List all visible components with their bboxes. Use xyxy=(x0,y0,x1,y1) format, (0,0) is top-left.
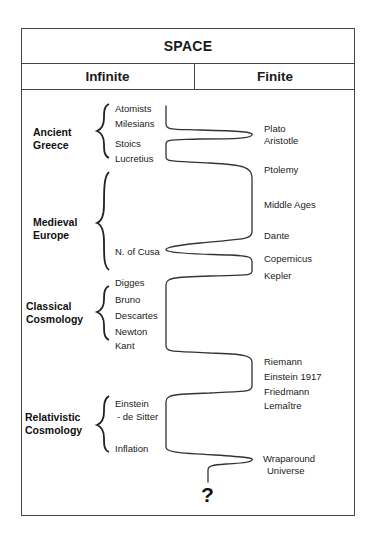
era-label-ancient-greece: Ancient Greece xyxy=(33,126,72,151)
infinite-item-atomists: Atomists xyxy=(115,103,151,114)
era-label-relativistic-cosmology: Relativistic Cosmology xyxy=(25,411,82,436)
infinite-item-milesians: Milesians xyxy=(115,118,155,129)
oscillation-curve-layer xyxy=(0,0,376,541)
infinite-item-stoics: Stoics xyxy=(115,138,141,149)
era-label-classical-cosmology: Classical Cosmology xyxy=(26,300,83,325)
open-question-mark: ? xyxy=(201,484,214,506)
finite-item-riemann: Riemann xyxy=(264,356,302,367)
belief-oscillation-curve xyxy=(166,106,252,482)
brace-relativistic-cosmology xyxy=(97,396,109,452)
brace-medieval-europe xyxy=(97,172,109,270)
infinite-item-lucretius: Lucretius xyxy=(115,153,154,164)
finite-item-plato: Plato xyxy=(264,123,286,134)
finite-item-lema-tre: Lemaître xyxy=(264,400,302,411)
infinite-item-n-of-cusa: N. of Cusa xyxy=(115,246,160,257)
infinite-item-descartes: Descartes xyxy=(115,310,158,321)
infinite-item-kant: Kant xyxy=(115,340,135,351)
finite-item-universe: Universe xyxy=(267,465,305,476)
finite-item-einstein-1917: Einstein 1917 xyxy=(264,371,322,382)
infinite-item-einstein: Einstein xyxy=(115,398,149,409)
infinite-item-digges: Digges xyxy=(115,277,145,288)
finite-item-ptolemy: Ptolemy xyxy=(264,164,298,175)
brace-classical-cosmology xyxy=(97,286,109,340)
finite-item-aristotle: Aristotle xyxy=(264,135,298,146)
finite-item-middle-ages: Middle Ages xyxy=(264,199,316,210)
finite-item-wraparound: Wraparound xyxy=(263,453,315,464)
infinite-item-de-sitter: - de Sitter xyxy=(117,411,158,422)
infinite-item-bruno: Bruno xyxy=(115,294,140,305)
era-label-medieval-europe: Medieval Europe xyxy=(33,216,77,241)
finite-item-kepler: Kepler xyxy=(264,270,291,281)
brace-ancient-greece xyxy=(97,104,109,158)
finite-item-friedmann: Friedmann xyxy=(264,386,309,397)
infinite-item-newton: Newton xyxy=(115,326,147,337)
finite-item-dante: Dante xyxy=(264,230,289,241)
infinite-item-inflation: Inflation xyxy=(115,443,148,454)
finite-item-copernicus: Copernicus xyxy=(264,253,312,264)
